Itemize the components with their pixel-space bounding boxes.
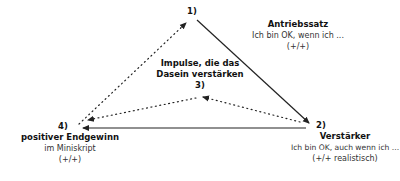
node-4-description: 4) positiver Endgewinn im Miniskript (+/… — [10, 121, 130, 165]
node-3-description: Impulse, die das Dasein verstärken 3) — [140, 58, 260, 91]
node-2-description: Verstärker Ich bin OK, auch wenn ich ...… — [290, 131, 400, 164]
node-1-sign: (+/+) — [248, 41, 348, 52]
node-2-sign: (+/+ realistisch) — [290, 153, 400, 164]
node-4-text: im Miniskript — [10, 143, 130, 154]
node-1-text: Ich bin OK, wenn ich ... — [248, 30, 348, 41]
node-1-number: 1) — [187, 6, 197, 17]
node-3-title-line2: Dasein verstärken — [140, 69, 260, 80]
node-1-title: Antriebssatz — [248, 19, 348, 30]
node-3-number: 3) — [140, 80, 260, 91]
node-4-sign: (+/+) — [10, 154, 130, 165]
node-2-number: 2) — [316, 120, 326, 131]
node-3-title-line1: Impulse, die das — [140, 58, 260, 69]
node-4-title: positiver Endgewinn — [10, 132, 130, 143]
node-1-description: Antriebssatz Ich bin OK, wenn ich ... (+… — [248, 19, 348, 52]
node-2-text: Ich bin OK, auch wenn ich ... — [290, 142, 400, 153]
edge-3-to-4 — [88, 98, 196, 120]
node-2-title: Verstärker — [290, 131, 400, 142]
node-4-number: 4) — [10, 121, 130, 132]
